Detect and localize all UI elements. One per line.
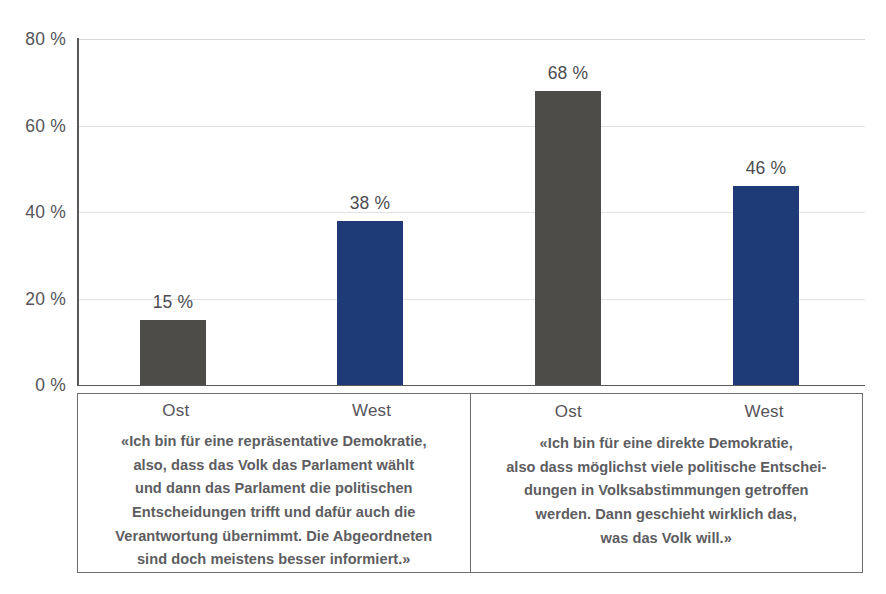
bar-group1-west[interactable]: 38 %: [337, 221, 403, 385]
bar-group2-ost[interactable]: 68 %: [535, 91, 601, 385]
gridline-60: 60 %: [78, 126, 865, 127]
quote-line: also dass möglichst viele politische Ent…: [485, 456, 849, 480]
bar-value-label: 68 %: [548, 63, 589, 84]
gridline-80: 80 %: [78, 39, 865, 40]
category-labels-group1: Ost West: [78, 394, 470, 428]
bar-value-label: 15 %: [153, 292, 194, 313]
caption-panel-direct-democracy: Ost West «Ich bin für eine direkte Demok…: [470, 394, 863, 572]
y-axis-line: [77, 38, 79, 386]
quote-line: dungen in Volksabstimmungen getroffen: [485, 479, 849, 503]
y-tick-label-60: 60 %: [25, 115, 66, 136]
quote-text-group2: «Ich bin für eine direkte Demokratie, al…: [471, 430, 863, 550]
x-axis-line: [78, 385, 865, 387]
y-tick-label-0: 0 %: [35, 375, 66, 396]
quote-line: Verantwortung übernimmt. Die Abgeordnete…: [92, 525, 456, 549]
bar-group2-west[interactable]: 46 %: [733, 186, 799, 385]
quote-line: und dann das Parlament die politischen: [92, 477, 456, 501]
caption-panel-representative-democracy: Ost West «Ich bin für eine repräsentativ…: [78, 394, 470, 572]
category-label-ost: Ost: [78, 401, 274, 421]
y-tick-label-80: 80 %: [25, 29, 66, 50]
quote-text-group1: «Ich bin für eine repräsentative Demokra…: [78, 428, 470, 572]
category-label-west: West: [274, 401, 470, 421]
bar-value-label: 38 %: [350, 193, 391, 214]
quote-line: Entscheidungen trifft und dafür auch die: [92, 501, 456, 525]
y-tick-label-40: 40 %: [25, 202, 66, 223]
y-tick-label-20: 20 %: [25, 288, 66, 309]
quote-line: werden. Dann geschieht wirklich das,: [485, 503, 849, 527]
quote-line: «Ich bin für eine direkte Demokratie,: [485, 432, 849, 456]
quote-line: «Ich bin für eine repräsentative Demokra…: [92, 430, 456, 454]
bar-value-label: 46 %: [746, 158, 787, 179]
caption-table: Ost West «Ich bin für eine repräsentativ…: [77, 393, 863, 573]
quote-line: sind doch meistens besser informiert.»: [92, 548, 456, 572]
quote-line: also, dass das Volk das Parlament wählt: [92, 454, 456, 478]
category-label-ost: Ost: [471, 402, 667, 422]
bar-group1-ost[interactable]: 15 %: [140, 320, 206, 385]
plot-area: 80 % 60 % 40 % 20 % 0 % 15 % 38 % 68 % 4…: [78, 39, 865, 385]
bar-chart: 80 % 60 % 40 % 20 % 0 % 15 % 38 % 68 % 4…: [0, 0, 886, 594]
quote-line: was das Volk will.»: [485, 527, 849, 551]
category-labels-group2: Ost West: [471, 394, 863, 430]
category-label-west: West: [666, 402, 862, 422]
